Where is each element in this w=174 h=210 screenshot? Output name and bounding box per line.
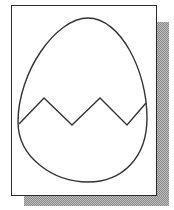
egg-illustration	[0, 0, 174, 210]
egg-outline-icon	[18, 18, 147, 182]
egg-crack-zigzag	[19, 98, 146, 125]
